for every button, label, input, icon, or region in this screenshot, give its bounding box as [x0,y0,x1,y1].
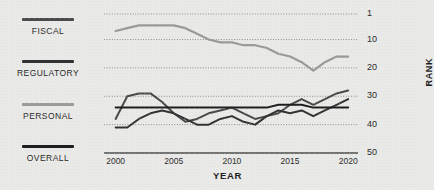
y-tick-label: 30 [367,90,377,100]
x-axis-title: YEAR [96,170,359,181]
legend-item-fiscal[interactable]: FISCAL [0,18,96,36]
legend-item-personal[interactable]: PERSONAL [0,103,96,121]
y-tick-label: 1 [367,8,372,18]
plot-area: YEAR 20002005201020152020 [96,0,359,190]
legend-label: OVERALL [27,153,69,163]
legend-swatch-overall [22,145,74,148]
x-tick-label: 2000 [96,156,136,166]
legend-label: FISCAL [32,26,64,36]
legend-item-overall[interactable]: OVERALL [0,145,96,163]
legend-item-regulatory[interactable]: REGULATORY [0,60,96,78]
legend-swatch-personal [22,103,74,106]
y-axis-title: RANK [424,58,434,86]
legend-swatch-regulatory [22,60,74,63]
x-tick-label: 2005 [154,156,194,166]
y-tick-label: 40 [367,119,377,129]
y-tick-label: 50 [367,147,377,157]
y-axis-tick-group: 11020304050 [359,0,427,190]
chart-legend: FISCALREGULATORYPERSONALOVERALL [0,0,96,190]
x-tick-label: 2010 [212,156,252,166]
series-line-personal[interactable] [116,25,349,70]
legend-label: PERSONAL [23,111,73,121]
legend-label: REGULATORY [17,68,79,78]
y-tick-label: 20 [367,62,377,72]
legend-swatch-fiscal [22,18,74,21]
x-tick-label: 2015 [270,156,310,166]
series-line-regulatory[interactable] [116,99,349,127]
y-tick-label: 10 [367,34,377,44]
